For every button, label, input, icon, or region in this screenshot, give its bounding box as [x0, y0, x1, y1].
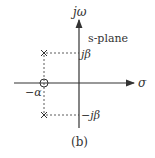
jbeta-label: jβ [78, 48, 91, 61]
jomega-label: jω [70, 5, 87, 19]
sigma-label: σ [138, 76, 147, 90]
s-plane-label: s-plane [88, 32, 128, 45]
neg-jbeta-label: −jβ [81, 109, 100, 122]
neg-alpha-label: −α [25, 86, 42, 99]
s-plane-diagram: jω s-plane jβ σ −α −jβ (b) [0, 0, 155, 158]
caption: (b) [71, 135, 88, 149]
